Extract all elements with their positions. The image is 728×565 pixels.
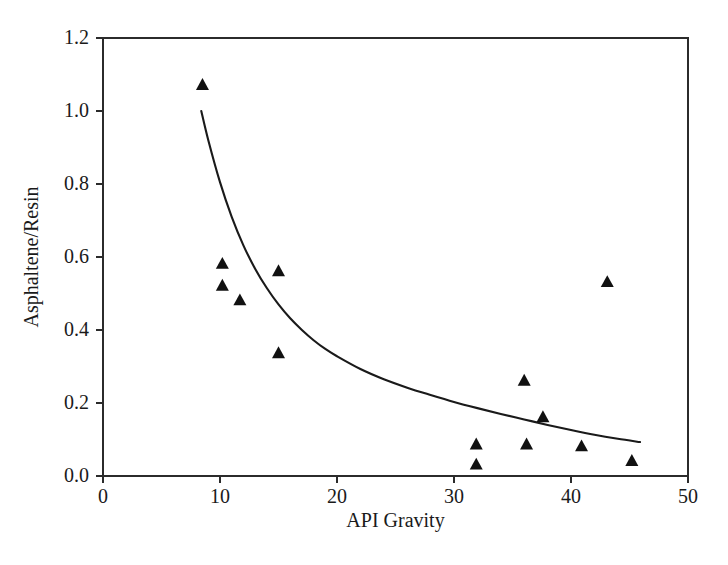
- data-point-marker: [601, 275, 614, 287]
- data-points-layer: [196, 78, 638, 470]
- y-tick-label: 0.8: [64, 172, 89, 194]
- data-point-marker: [216, 279, 229, 291]
- y-tick-label: 1.0: [64, 99, 89, 121]
- data-point-marker: [536, 410, 549, 422]
- x-tick-label: 10: [210, 485, 230, 507]
- x-axis-title: API Gravity: [346, 509, 444, 532]
- x-axis-ticks: 01020304050: [98, 476, 698, 507]
- data-point-marker: [470, 438, 483, 450]
- y-tick-label: 0.6: [64, 245, 89, 267]
- y-tick-label: 0.2: [64, 391, 89, 413]
- data-point-marker: [520, 438, 533, 450]
- plot-frame: [103, 38, 688, 476]
- x-tick-label: 0: [98, 485, 108, 507]
- data-point-marker: [625, 454, 638, 466]
- x-tick-label: 30: [444, 485, 464, 507]
- data-point-marker: [272, 264, 285, 276]
- data-point-marker: [196, 78, 209, 90]
- fitted-curve-layer: [201, 111, 640, 442]
- data-point-marker: [470, 458, 483, 470]
- y-tick-label: 0.0: [64, 464, 89, 486]
- x-tick-label: 20: [327, 485, 347, 507]
- y-axis-title: Asphaltene/Resin: [20, 186, 43, 327]
- data-point-marker: [518, 374, 531, 386]
- scatter-plot-figure: 0.00.20.40.60.81.01.2 01020304050 API Gr…: [0, 0, 728, 565]
- y-axis-ticks: 0.00.20.40.60.81.01.2: [64, 26, 103, 486]
- fitted-trend-curve: [201, 111, 640, 442]
- x-tick-label: 40: [561, 485, 581, 507]
- axis-frame: [103, 38, 688, 476]
- y-tick-label: 1.2: [64, 26, 89, 48]
- y-tick-label: 0.4: [64, 318, 89, 340]
- data-point-marker: [233, 293, 246, 305]
- chart-container: 0.00.20.40.60.81.01.2 01020304050 API Gr…: [0, 0, 728, 565]
- x-tick-label: 50: [678, 485, 698, 507]
- data-point-marker: [272, 346, 285, 358]
- data-point-marker: [216, 257, 229, 269]
- data-point-marker: [575, 439, 588, 451]
